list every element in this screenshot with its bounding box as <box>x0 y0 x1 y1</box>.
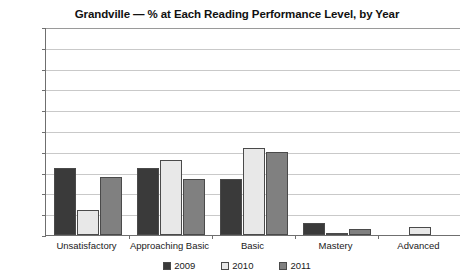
bar[interactable] <box>54 168 76 235</box>
chart-title: Grandville — % at Each Reading Performan… <box>0 8 474 20</box>
bar[interactable] <box>303 223 325 235</box>
legend-label: 2011 <box>290 261 310 271</box>
x-axis-category-label: Approaching Basic <box>130 240 209 251</box>
bar[interactable] <box>349 229 371 235</box>
x-axis-category-label: Mastery <box>319 240 353 251</box>
legend-label: 2009 <box>174 261 195 271</box>
cropped-text-row <box>0 0 474 2</box>
bar-chart-figure: Grandville — % at Each Reading Performan… <box>0 0 474 280</box>
bar[interactable] <box>266 152 288 235</box>
bar-group <box>378 28 461 235</box>
bar[interactable] <box>243 148 265 235</box>
x-axis-category-label: Basic <box>241 240 264 251</box>
x-axis-category-label: Advanced <box>397 240 439 251</box>
legend-entry[interactable]: 2009 <box>163 261 195 271</box>
x-axis-separator <box>129 235 130 239</box>
x-axis-separator <box>212 235 213 239</box>
bar[interactable] <box>326 233 348 235</box>
bar[interactable] <box>409 227 431 235</box>
legend-swatch-icon <box>163 262 171 270</box>
plot-area: 0102030405060708090100 <box>45 28 460 236</box>
legend-entry[interactable]: 2010 <box>221 261 253 271</box>
bar[interactable] <box>77 210 99 235</box>
bar[interactable] <box>100 177 122 235</box>
bar[interactable] <box>137 168 159 235</box>
y-axis-tick <box>42 236 46 237</box>
legend-swatch-icon <box>221 262 229 270</box>
bar[interactable] <box>183 179 205 235</box>
bar-group <box>129 28 212 235</box>
x-axis-category-label: Unsatisfactory <box>56 240 116 251</box>
bar-group <box>46 28 129 235</box>
bar-group <box>212 28 295 235</box>
x-axis-separator <box>295 235 296 239</box>
bar[interactable] <box>160 160 182 235</box>
x-axis-separator <box>378 235 379 239</box>
legend-swatch-icon <box>279 262 287 270</box>
bar-group <box>295 28 378 235</box>
chart-legend: 200920102011 <box>0 261 474 271</box>
bar[interactable] <box>220 179 242 235</box>
legend-label: 2010 <box>232 261 253 271</box>
legend-entry[interactable]: 2011 <box>279 261 310 271</box>
